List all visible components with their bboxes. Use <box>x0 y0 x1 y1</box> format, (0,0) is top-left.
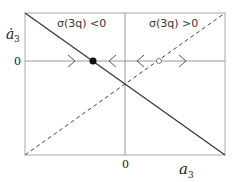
unstable-fixed-point <box>157 59 162 64</box>
stable-fixed-point <box>90 58 97 65</box>
x-axis-label-subscript: 3 <box>188 170 194 180</box>
phase-diagram: σ(3q) <0 σ(3q) >0 ȧ 3 0 0 a 3 <box>0 0 239 182</box>
y-axis-label-subscript: 3 <box>14 34 20 44</box>
y-zero-tick: 0 <box>14 55 21 68</box>
region-right-label: σ(3q) >0 <box>149 17 198 30</box>
region-left-label: σ(3q) <0 <box>57 17 106 30</box>
x-axis-label: a <box>179 160 188 178</box>
x-zero-tick: 0 <box>122 158 129 171</box>
